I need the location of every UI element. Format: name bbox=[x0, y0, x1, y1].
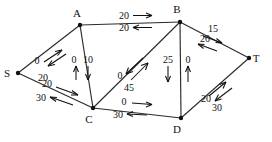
flow-arrow-a-b-forward bbox=[133, 13, 152, 18]
node-dot-t bbox=[247, 56, 251, 60]
flow-label-s-a-forward: 0 bbox=[35, 55, 40, 66]
node-label-a: A bbox=[73, 7, 81, 19]
edge-annotation-c-d: 0 30 bbox=[113, 96, 152, 120]
edge-line-s-c bbox=[18, 73, 93, 108]
node-label-s: S bbox=[4, 67, 10, 79]
node-dot-b bbox=[178, 20, 182, 24]
edge-annotation-c-b: 0 45 bbox=[118, 58, 149, 93]
flow-label-d-t-forward: 20 bbox=[201, 93, 211, 104]
flow-arrow-a-b-backward bbox=[133, 25, 152, 30]
flow-arrow-c-b-forward bbox=[131, 63, 148, 80]
edge-line-b-d bbox=[180, 22, 181, 118]
flow-network-diagram: S A B C D T 0 20 20 bbox=[0, 0, 272, 142]
flow-arrow-b-d-forward bbox=[166, 66, 171, 82]
node-dot-a bbox=[78, 23, 82, 27]
flow-label-c-b-forward: 45 bbox=[124, 82, 134, 93]
flow-label-c-b-backward: 0 bbox=[118, 70, 123, 81]
flow-arrow-s-c-backward bbox=[50, 97, 73, 105]
node-label-b: B bbox=[173, 3, 180, 15]
edge-line-c-b bbox=[93, 22, 180, 108]
node-label-c: C bbox=[85, 113, 92, 125]
flow-label-c-d-backward: 30 bbox=[113, 109, 123, 120]
flow-label-a-b-backward: 20 bbox=[119, 22, 129, 33]
node-dot-c bbox=[91, 106, 95, 110]
flow-arrow-b-d-backward bbox=[186, 66, 191, 82]
flow-arrow-d-t-backward bbox=[215, 88, 232, 101]
edge-line-a-c bbox=[80, 25, 93, 108]
flow-arrow-b-t-backward bbox=[198, 44, 217, 51]
flow-label-c-d-forward: 0 bbox=[122, 96, 127, 107]
flow-arrow-s-a-forward bbox=[44, 50, 62, 62]
edge-annotation-a-c: 0 10 bbox=[72, 54, 94, 80]
edge-annotation-b-d: 25 0 bbox=[163, 54, 191, 82]
flow-label-a-c-backward: 0 bbox=[72, 54, 77, 65]
node-dot-d bbox=[179, 116, 183, 120]
flow-label-d-t-backward: 30 bbox=[212, 102, 222, 113]
flow-arrow-s-a-backward bbox=[48, 54, 66, 66]
flow-label-a-c-forward: 10 bbox=[83, 54, 93, 65]
node-label-d: D bbox=[173, 123, 181, 135]
edge-line-c-d bbox=[93, 108, 181, 118]
flow-label-s-c-forward: 20 bbox=[42, 78, 52, 89]
flow-arrow-c-d-forward bbox=[132, 102, 152, 107]
edge-annotation-a-b: 20 20 bbox=[119, 10, 152, 33]
flow-arrow-s-c-forward bbox=[56, 87, 78, 95]
flow-label-b-d-backward: 0 bbox=[186, 54, 191, 65]
flow-arrow-a-c-backward bbox=[74, 66, 79, 80]
node-dot-s bbox=[16, 71, 20, 75]
flow-label-b-d-forward: 25 bbox=[163, 54, 173, 65]
flow-arrow-c-b-backward bbox=[126, 58, 143, 74]
flow-label-s-c-backward: 30 bbox=[36, 92, 46, 103]
edge-annotation-b-t: 15 20 bbox=[198, 23, 222, 51]
edge-line-a-b bbox=[80, 22, 180, 25]
node-label-t: T bbox=[253, 52, 260, 64]
flow-label-b-t-backward: 20 bbox=[200, 33, 210, 44]
graph-canvas: S A B C D T 0 20 20 bbox=[0, 0, 272, 142]
flow-label-a-b-forward: 20 bbox=[119, 10, 129, 21]
